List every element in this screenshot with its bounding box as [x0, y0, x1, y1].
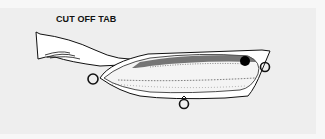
eye-icon	[240, 56, 250, 66]
rear-eyelet-icon	[88, 74, 98, 84]
belly-eyelet-icon	[180, 100, 189, 109]
lure-illustration	[0, 0, 325, 139]
